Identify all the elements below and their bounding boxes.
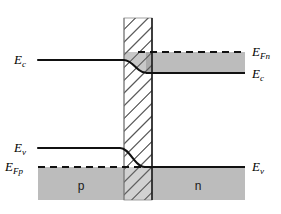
label-region-n: n (195, 179, 202, 193)
label-efp-left: EFp (4, 159, 23, 176)
shade-n-conduction (146, 52, 245, 73)
label-ev-left: Ev (13, 140, 26, 157)
label-ec-left: Ec (13, 52, 26, 69)
label-efn-right: EFn (251, 44, 270, 61)
label-region-p: p (78, 179, 85, 193)
label-ev-right: Ev (251, 159, 264, 176)
label-ec-right: Ec (251, 66, 264, 83)
band-diagram-canvas: Ec Ev EFp EFn Ec Ev p n (0, 0, 281, 214)
barrier-hatch-overlay (124, 18, 152, 200)
band-diagram-figure: Ec Ev EFp EFn Ec Ev p n (0, 0, 281, 214)
